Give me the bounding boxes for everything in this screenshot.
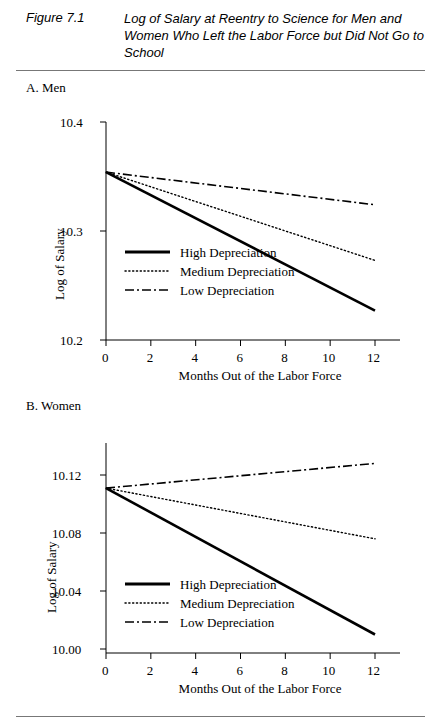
y-axis-title: Log of Salary — [44, 542, 60, 613]
figure-number: Figure 7.1 — [26, 10, 85, 25]
x-tick-label: 10 — [322, 663, 335, 679]
x-axis-title: Months Out of the Labor Force — [160, 681, 360, 697]
x-tick-label: 2 — [147, 350, 154, 366]
y-tick-label: 10.2 — [60, 333, 83, 349]
series-line-low-depreciation-women — [106, 463, 375, 488]
x-tick-label: 6 — [237, 663, 244, 679]
y-tick-label: 10.00 — [52, 642, 81, 658]
figure-header: Figure 7.1 Log of Salary at Reentry to S… — [0, 0, 441, 64]
x-tick-label: 8 — [281, 350, 288, 366]
chart-svg-women — [0, 398, 441, 708]
y-tick-label: 10.4 — [60, 115, 83, 131]
y-axis-title: Log of Salary — [52, 229, 68, 300]
header-divider — [16, 70, 425, 71]
x-tick-label: 4 — [192, 663, 199, 679]
footer-divider — [16, 716, 425, 717]
legend-label-low-men: Low Depreciation — [180, 283, 274, 299]
x-tick-label: 8 — [281, 663, 288, 679]
x-tick-label: 10 — [322, 350, 335, 366]
series-line-medium-depreciation-women — [106, 488, 375, 539]
series-line-high-depreciation-women — [106, 488, 375, 634]
x-tick-label: 4 — [192, 350, 199, 366]
legend-label-high-men: High Depreciation — [180, 245, 276, 261]
x-tick-label: 2 — [147, 663, 154, 679]
figure-title: Log of Salary at Reentry to Science for … — [124, 10, 424, 61]
x-tick-label: 12 — [367, 350, 380, 366]
series-line-low-depreciation-men — [106, 172, 375, 205]
legend-label-high-women: High Depreciation — [180, 577, 276, 593]
x-tick-label: 0 — [102, 663, 109, 679]
plot-area-men: 10.4 10.3 10.2 0 2 4 6 8 10 12 Log of Sa… — [0, 80, 441, 380]
x-tick-label: 0 — [102, 350, 109, 366]
legend-label-medium-women: Medium Depreciation — [180, 596, 294, 612]
y-tick-label: 10.08 — [52, 526, 81, 542]
panel-women: B. Women — [0, 398, 441, 708]
x-tick-label: 12 — [367, 663, 380, 679]
plot-area-women: 10.12 10.08 10.04 10.00 0 2 4 6 8 10 12 … — [0, 398, 441, 698]
x-axis-title: Months Out of the Labor Force — [160, 368, 360, 384]
legend-label-low-women: Low Depreciation — [180, 615, 274, 631]
legend-label-medium-men: Medium Depreciation — [180, 264, 294, 280]
panel-men: A. Men — [0, 80, 441, 380]
y-tick-label: 10.12 — [52, 468, 81, 484]
x-tick-label: 6 — [237, 350, 244, 366]
